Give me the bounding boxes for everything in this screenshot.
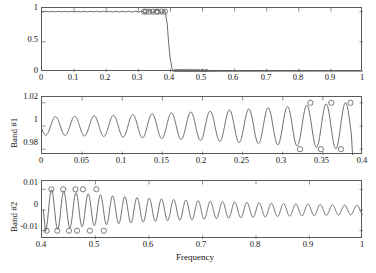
band-1-xtick-0-05: 0.05 <box>69 156 94 165</box>
band-1-xtick-0-15: 0.15 <box>149 156 174 165</box>
band-2-xtick-1: 1 <box>352 240 372 249</box>
panel-band-1: Band #1 1.02 1 0.98 0 0.05 0.1 0.15 0.2 … <box>0 88 376 176</box>
magnitude-xtick-0-2: 0.2 <box>95 73 115 82</box>
filter-response-figure: 1 0.5 0 0 0.1 0.2 0.3 0.4 0.5 0.6 0.7 0.… <box>0 0 376 273</box>
frequency-axis-label: Frequency <box>176 252 214 262</box>
magnitude-xtick-0-5: 0.5 <box>191 73 211 82</box>
band-2-ytick-n0-01: -0.01 <box>4 222 38 231</box>
band-2-xtick-0-9: 0.9 <box>298 240 318 249</box>
magnitude-ytick-0-5: 0.5 <box>14 35 38 44</box>
band-2-xtick-0-5: 0.5 <box>84 240 104 249</box>
band-1-ytick-0-98: 0.98 <box>8 138 38 147</box>
band-1-xtick-0-2: 0.2 <box>191 156 211 165</box>
band-2-xtick-0-6: 0.6 <box>138 240 158 249</box>
band-2-xtick-0-7: 0.7 <box>191 240 211 249</box>
magnitude-xtick-0: 0 <box>31 73 51 82</box>
band-1-xtick-0-35: 0.35 <box>309 156 334 165</box>
band-1-plot-box <box>41 96 362 154</box>
magnitude-xtick-0-6: 0.6 <box>223 73 243 82</box>
band-1-xtick-0-1: 0.1 <box>111 156 131 165</box>
magnitude-ytick-1: 1 <box>14 3 38 12</box>
band-2-xtick-0-4: 0.4 <box>31 240 51 249</box>
panel-band-2: Band #2 0.01 0 -0.01 0.4 0.5 0.6 0.7 0.8… <box>0 176 376 273</box>
magnitude-plot-canvas <box>42 8 363 72</box>
band-2-plot-canvas <box>42 181 363 239</box>
magnitude-xtick-0-1: 0.1 <box>63 73 83 82</box>
magnitude-plot-box <box>41 7 362 71</box>
band-1-xtick-0-4: 0.4 <box>352 156 372 165</box>
band-1-xtick-0: 0 <box>31 156 51 165</box>
band-2-xtick-0-8: 0.8 <box>245 240 265 249</box>
band-1-ytick-1-02: 1.02 <box>8 92 38 101</box>
band-1-plot-canvas <box>42 97 363 155</box>
band-1-xtick-0-3: 0.3 <box>271 156 291 165</box>
band-2-plot-box <box>41 180 362 238</box>
magnitude-xtick-0-4: 0.4 <box>159 73 179 82</box>
magnitude-xtick-0-9: 0.9 <box>320 73 340 82</box>
band-1-ytick-1: 1 <box>8 115 38 124</box>
band-2-ytick-0-01: 0.01 <box>6 178 38 187</box>
magnitude-xtick-0-7: 0.7 <box>256 73 276 82</box>
band-1-xtick-0-25: 0.25 <box>229 156 254 165</box>
band-2-ytick-0: 0 <box>6 200 38 209</box>
magnitude-xtick-1: 1 <box>352 73 372 82</box>
panel-magnitude-response: 1 0.5 0 0 0.1 0.2 0.3 0.4 0.5 0.6 0.7 0.… <box>0 0 376 88</box>
magnitude-xtick-0-3: 0.3 <box>127 73 147 82</box>
magnitude-xtick-0-8: 0.8 <box>288 73 308 82</box>
